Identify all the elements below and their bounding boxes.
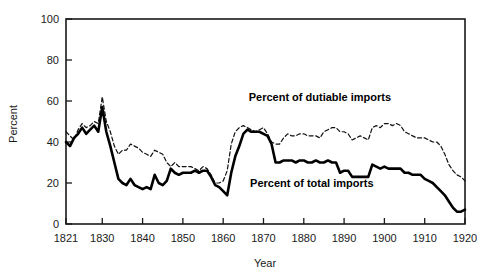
y-tick-label: 100 xyxy=(41,13,59,25)
x-tick-label: 1880 xyxy=(292,232,316,244)
chart-figure: 020406080100 182118301840185018601870188… xyxy=(0,0,496,276)
x-tick-label: 1850 xyxy=(171,232,195,244)
x-tick-label: 1860 xyxy=(211,232,235,244)
x-tick-label: 1890 xyxy=(332,232,356,244)
y-axis-title: Percent xyxy=(7,105,19,143)
y-tick-label: 20 xyxy=(47,177,59,189)
series-annotation: Percent of dutiable imports xyxy=(249,91,391,103)
x-tick-label: 1910 xyxy=(412,232,436,244)
x-tick-label: 1840 xyxy=(130,232,154,244)
x-tick-label: 1830 xyxy=(90,232,114,244)
y-tick-label: 40 xyxy=(47,136,59,148)
y-tick-label: 0 xyxy=(53,218,59,230)
x-tick-label: 1900 xyxy=(372,232,396,244)
x-axis-title: Year xyxy=(254,257,277,269)
series-annotation: Percent of total imports xyxy=(250,177,373,189)
x-tick-label: 1920 xyxy=(453,232,477,244)
y-tick-label: 80 xyxy=(47,54,59,66)
x-tick-label: 1821 xyxy=(54,232,78,244)
y-tick-label: 60 xyxy=(47,95,59,107)
x-tick-label: 1870 xyxy=(251,232,275,244)
